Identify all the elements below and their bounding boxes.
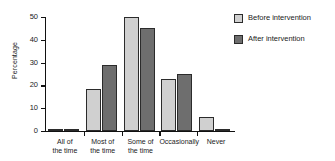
legend-swatch-before-icon [234, 14, 243, 23]
x-axis-tick-mark [159, 132, 160, 136]
legend-item-before[interactable]: Before intervention [234, 13, 311, 23]
y-axis-title: Percentage [11, 26, 18, 96]
x-axis-tick-label: Some of the time [122, 137, 160, 155]
y-axis-tick-mark [41, 85, 45, 86]
bar-before[interactable] [48, 129, 63, 131]
y-axis-tick-label: 0 [25, 127, 38, 135]
bar-group [84, 17, 122, 131]
bar-before[interactable] [86, 89, 101, 131]
x-axis-tick-label: All of the time [46, 137, 84, 155]
y-axis-tick-label: 20 [25, 81, 38, 89]
plot-area [46, 17, 235, 131]
y-axis-tick-label: 40 [25, 36, 38, 44]
bar-after[interactable] [215, 129, 230, 131]
y-axis-tick-mark [41, 17, 45, 18]
bar-group [46, 17, 84, 131]
y-axis-tick-mark [41, 40, 45, 41]
x-axis-tick-label: Never [197, 137, 235, 146]
bar-after[interactable] [64, 129, 79, 131]
bar-after[interactable] [140, 28, 155, 131]
bar-before[interactable] [161, 79, 176, 131]
x-axis-line [45, 131, 235, 132]
bar-before[interactable] [124, 17, 139, 131]
y-axis-tick-mark [41, 63, 45, 64]
bar-after[interactable] [102, 65, 117, 131]
y-axis-tick-mark [41, 131, 45, 132]
bar-after[interactable] [177, 74, 192, 131]
y-axis-tick-label: 50 [25, 13, 38, 21]
legend-label-before: Before intervention [248, 14, 311, 22]
bar-group [159, 17, 197, 131]
y-axis-tick-label: 30 [25, 59, 38, 67]
x-axis-tick-mark [197, 132, 198, 136]
x-axis-tick-mark [122, 132, 123, 136]
y-axis-tick-labels: 01020304050 [24, 0, 38, 161]
bar-group [197, 17, 235, 131]
y-axis-tick-label: 10 [25, 104, 38, 112]
bar-chart: Percentage 01020304050 All of the timeMo… [0, 0, 335, 161]
legend-swatch-after-icon [234, 35, 243, 44]
y-axis-tick-mark [41, 108, 45, 109]
legend-item-after[interactable]: After intervention [234, 34, 311, 44]
bar-group [122, 17, 160, 131]
x-axis-tick-label: Occasionally [159, 137, 197, 146]
legend-label-after: After intervention [248, 35, 305, 43]
x-axis-tick-mark [84, 132, 85, 136]
chart-legend: Before intervention After intervention [234, 13, 311, 55]
bar-before[interactable] [199, 117, 214, 131]
x-axis-tick-label: Most of the time [84, 137, 122, 155]
